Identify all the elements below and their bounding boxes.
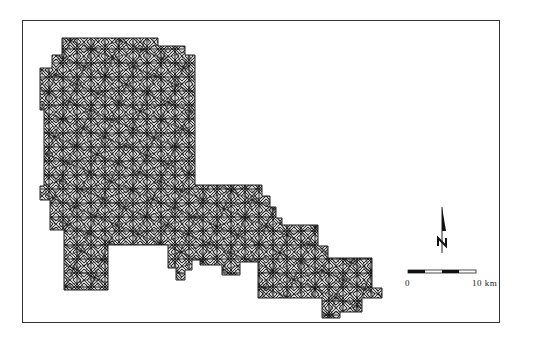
map-canvas bbox=[0, 0, 536, 347]
triangulated-mesh bbox=[30, 30, 400, 330]
scale-end-label: 10 km bbox=[472, 278, 497, 288]
north-arrow-icon bbox=[438, 207, 446, 253]
scale-bar[interactable] bbox=[408, 270, 476, 273]
scale-start-label: 0 bbox=[405, 278, 410, 288]
